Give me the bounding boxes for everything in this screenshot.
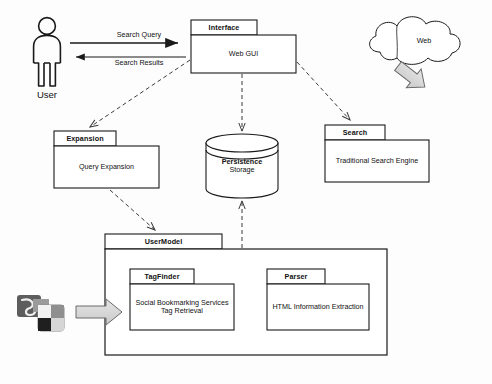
delicious-icon: [38, 305, 64, 331]
edge-interface-to-search: [297, 62, 350, 120]
diagram-vector-layer: [0, 0, 492, 384]
edge-expansion-to-usermodel: [110, 190, 155, 230]
cloud-web-shape: [370, 17, 460, 65]
persistence-storage-shape[interactable]: [206, 134, 278, 198]
actor-user-figure: [34, 18, 61, 86]
package-expansion[interactable]: [54, 131, 159, 188]
social-bookmarking-icons: [17, 295, 64, 331]
diagram-canvas: User Search Query Search Results Interfa…: [0, 0, 492, 384]
package-search[interactable]: [325, 125, 429, 182]
package-interface[interactable]: [191, 20, 296, 73]
edge-interface-to-expansion: [90, 60, 190, 127]
